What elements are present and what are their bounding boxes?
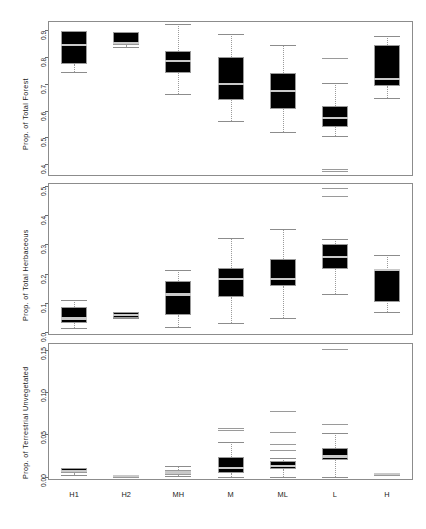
median-line	[374, 473, 400, 475]
panel-unvegetated-ylabel: Prop. of Terrestrial Unvegetated	[21, 366, 30, 479]
figure-root: Prop. of Total Forest 0.40.50.60.70.80.9…	[0, 0, 426, 529]
xtick-label-H2: H2	[121, 490, 130, 499]
boxplot-H	[48, 183, 413, 335]
xtick-label-M: M	[227, 490, 233, 499]
ytick-label: 0.5	[40, 187, 47, 196]
x-axis-labels: H1H2MHMMLLH	[48, 490, 413, 508]
ytick-label: 0.2	[40, 274, 47, 283]
panel-forest-ylabel: Prop. of Total Forest	[21, 78, 30, 150]
boxplot-H	[48, 343, 413, 480]
panel-herbaceous-ylabel: Prop. of Total Herbaceous	[21, 229, 30, 321]
xtick-label-L: L	[333, 490, 337, 499]
whisker-cap-upper	[374, 36, 400, 37]
ytick-label: 0.7	[40, 85, 47, 94]
panel-forest: Prop. of Total Forest 0.40.50.60.70.80.9	[0, 0, 426, 180]
whisker-cap-lower	[374, 312, 400, 313]
box-iqr	[374, 270, 400, 303]
xtick-label-MH: MH	[173, 490, 185, 499]
whisker-cap-upper	[374, 255, 400, 256]
panel-unvegetated: Prop. of Terrestrial Unvegetated 0.000.0…	[0, 338, 426, 529]
ytick-label: 0.9	[40, 31, 47, 40]
panel-unvegetated-plot	[48, 343, 413, 480]
panel-herbaceous: Prop. of Total Herbaceous 0.00.10.20.30.…	[0, 181, 426, 337]
median-line	[374, 269, 400, 271]
ytick-label: 0.5	[40, 138, 47, 147]
ytick-label: 0.3	[40, 245, 47, 254]
ytick-label: 0.8	[40, 58, 47, 67]
median-line	[374, 78, 400, 80]
whisker-upper	[387, 255, 388, 270]
whisker-lower	[387, 86, 388, 98]
xtick-label-H: H	[384, 490, 389, 499]
xtick-label-ML: ML	[278, 490, 288, 499]
ytick-label: 0.1	[40, 303, 47, 312]
panel-herbaceous-plot	[48, 183, 413, 335]
ytick-label: 0.6	[40, 111, 47, 120]
ytick-label: 0.4	[40, 216, 47, 225]
whisker-lower	[387, 303, 388, 313]
whisker-cap-lower	[374, 98, 400, 99]
xtick-label-H1: H1	[69, 490, 78, 499]
whisker-upper	[387, 36, 388, 45]
boxplot-H	[48, 21, 413, 176]
panel-forest-plot	[48, 21, 413, 176]
ytick-label: 0.4	[40, 165, 47, 174]
